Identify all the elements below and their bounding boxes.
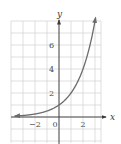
y-tick-label: 4: [49, 65, 54, 74]
x-tick-labels: −202: [29, 120, 85, 129]
exponential-chart: x y −202 246: [0, 0, 121, 144]
x-axis-label: x: [110, 112, 115, 122]
y-tick-label: 2: [49, 89, 54, 98]
x-tick-label: 0: [52, 120, 57, 129]
x-tick-label: 2: [80, 120, 85, 129]
y-axis-label: y: [56, 9, 63, 19]
x-tick-label: −2: [29, 120, 41, 129]
exponential-curve: [15, 18, 96, 116]
y-tick-label: 6: [49, 41, 54, 50]
y-tick-labels: 246: [49, 41, 54, 98]
